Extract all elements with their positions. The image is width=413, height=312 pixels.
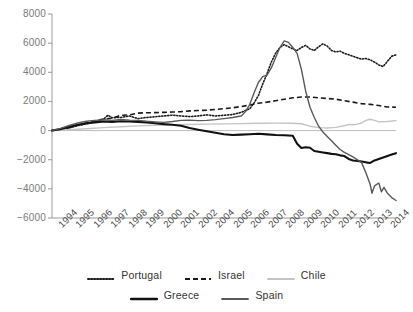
legend-line-icon bbox=[87, 270, 115, 280]
chart-canvas bbox=[0, 0, 413, 232]
chart-legend: PortugalIsraelChile GreeceSpain bbox=[0, 266, 413, 312]
legend-label: Greece bbox=[164, 290, 200, 301]
legend-item-portugal[interactable]: Portugal bbox=[87, 270, 162, 281]
legend-swatch-solid bbox=[221, 294, 249, 304]
legend-item-chile[interactable]: Chile bbox=[267, 270, 326, 281]
y-axis-tick-label: 2000 bbox=[0, 96, 46, 106]
legend-line-icon bbox=[130, 290, 158, 300]
chart-figure: 80006000400020000−2000−4000−6000 1994199… bbox=[0, 0, 413, 312]
legend-swatch-dotted bbox=[87, 274, 115, 284]
legend-line-icon bbox=[221, 290, 249, 300]
legend-label: Israel bbox=[218, 270, 245, 281]
legend-item-israel[interactable]: Israel bbox=[184, 270, 245, 281]
legend-label: Spain bbox=[255, 290, 283, 301]
y-axis-tick-label: 4000 bbox=[0, 67, 46, 77]
x-axis-tick-labels: 1994199519961997199819992000200120022004… bbox=[0, 218, 413, 268]
legend-swatch-dashed bbox=[184, 274, 212, 284]
y-axis-tick-label: 8000 bbox=[0, 9, 46, 19]
y-axis-tick-label: 6000 bbox=[0, 38, 46, 48]
plot-area bbox=[0, 0, 413, 232]
legend-swatch-solid bbox=[267, 274, 295, 284]
legend-label: Portugal bbox=[121, 270, 162, 281]
legend-item-greece[interactable]: Greece bbox=[130, 290, 200, 301]
legend-label: Chile bbox=[301, 270, 326, 281]
y-axis-tick-label: 0 bbox=[0, 126, 46, 136]
axis-spine bbox=[52, 14, 396, 218]
legend-line-icon bbox=[267, 270, 295, 280]
legend-row-2: GreeceSpain bbox=[0, 286, 413, 304]
legend-row-1: PortugalIsraelChile bbox=[0, 266, 413, 284]
series-line-portugal bbox=[52, 44, 396, 131]
legend-item-spain[interactable]: Spain bbox=[221, 290, 283, 301]
y-axis-tick-label: −2000 bbox=[0, 155, 46, 165]
legend-swatch-solid-thick bbox=[130, 294, 158, 304]
legend-line-icon bbox=[184, 270, 212, 280]
y-axis-tick-label: −4000 bbox=[0, 184, 46, 194]
